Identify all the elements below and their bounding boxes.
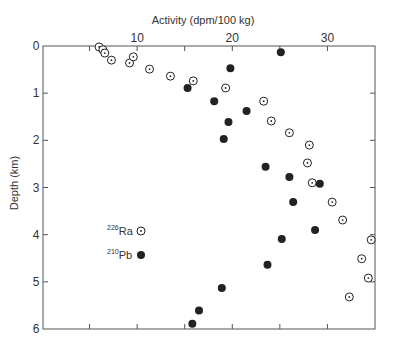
data-point (226, 64, 234, 72)
legend-label-ra226: 226Ra (107, 224, 134, 237)
x-tick-label: 30 (321, 31, 335, 45)
depth-profile-chart: Activity (dpm/100 kg) Depth (km) 102030 … (0, 0, 396, 347)
data-point (218, 284, 226, 292)
x-axis-ticks: 102030 (90, 31, 335, 329)
x-tick-label: 10 (130, 31, 144, 45)
filled-circle-marker-icon (137, 251, 145, 259)
data-point (224, 118, 232, 126)
y-tick-label: 4 (33, 228, 40, 242)
data-point (367, 236, 375, 244)
x-axis-title: Activity (dpm/100 kg) (152, 14, 255, 26)
data-point (220, 135, 228, 143)
series-226Ra (95, 43, 375, 301)
element-pb: Pb (119, 249, 132, 261)
circle-dot-marker-icon (137, 227, 145, 235)
data-point (311, 226, 319, 234)
data-point (222, 84, 230, 92)
data-point (328, 198, 336, 206)
data-point (263, 261, 271, 269)
y-tick-label: 1 (33, 86, 40, 100)
y-tick-label: 5 (33, 275, 40, 289)
legend-item-ra226: 226Ra (107, 224, 145, 237)
circle-dot-marker-icon (137, 227, 145, 235)
y-axis-ticks: 0123456 (33, 39, 375, 336)
data-point (210, 97, 218, 105)
y-tick-label: 2 (33, 133, 40, 147)
isotope-mass-ra226: 226 (107, 224, 119, 231)
plot-frame (43, 46, 375, 329)
data-point (277, 48, 285, 56)
data-point (345, 293, 353, 301)
data-point (285, 173, 293, 181)
series-210Pb (184, 48, 324, 328)
data-point (188, 320, 196, 328)
data-point (262, 163, 270, 171)
element-ra: Ra (119, 225, 134, 237)
data-point (243, 107, 251, 115)
legend: 226Ra 210Pb (107, 224, 145, 261)
data-point (184, 84, 192, 92)
data-point (339, 216, 347, 224)
data-point (285, 129, 293, 137)
data-point (166, 72, 174, 80)
data-point (260, 97, 268, 105)
data-point (189, 77, 197, 85)
data-point (146, 65, 154, 73)
data-point (316, 180, 324, 188)
data-point (195, 307, 203, 315)
data-point (101, 49, 109, 57)
isotope-mass-pb210: 210 (107, 248, 119, 255)
x-tick-label: 20 (226, 31, 240, 45)
data-point (303, 159, 311, 167)
data-point (308, 179, 316, 187)
data-point (289, 198, 297, 206)
data-series (95, 43, 375, 328)
data-point (278, 235, 286, 243)
legend-label-pb210: 210Pb (107, 248, 132, 261)
y-axis-title: Depth (km) (8, 156, 20, 210)
y-tick-label: 0 (33, 39, 40, 53)
y-tick-label: 6 (33, 322, 40, 336)
filled-circle-marker-icon (137, 251, 145, 259)
data-point (364, 274, 372, 282)
data-point (305, 141, 313, 149)
data-point (107, 56, 115, 64)
data-point (129, 53, 137, 61)
y-tick-label: 3 (33, 181, 40, 195)
data-point (267, 117, 275, 125)
legend-item-pb210: 210Pb (107, 248, 145, 261)
data-point (358, 255, 366, 263)
